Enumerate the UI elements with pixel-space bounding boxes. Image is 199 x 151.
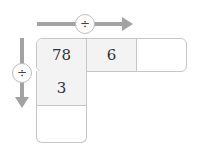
horizontal-cell-row: 78 6 bbox=[36, 38, 187, 72]
down-arrow-icon bbox=[15, 97, 29, 108]
column-cell-1: 3 bbox=[37, 71, 86, 106]
divide-icon-vertical: ÷ bbox=[12, 63, 32, 83]
divide-icon-horizontal: ÷ bbox=[75, 14, 95, 34]
vertical-cell-column: 3 bbox=[36, 71, 87, 143]
row-cell-1: 78 bbox=[37, 39, 87, 71]
row-cell-2: 6 bbox=[87, 39, 137, 71]
row-answer-cell[interactable] bbox=[137, 39, 186, 71]
column-answer-cell[interactable] bbox=[37, 106, 86, 141]
right-arrow-icon bbox=[122, 17, 133, 31]
